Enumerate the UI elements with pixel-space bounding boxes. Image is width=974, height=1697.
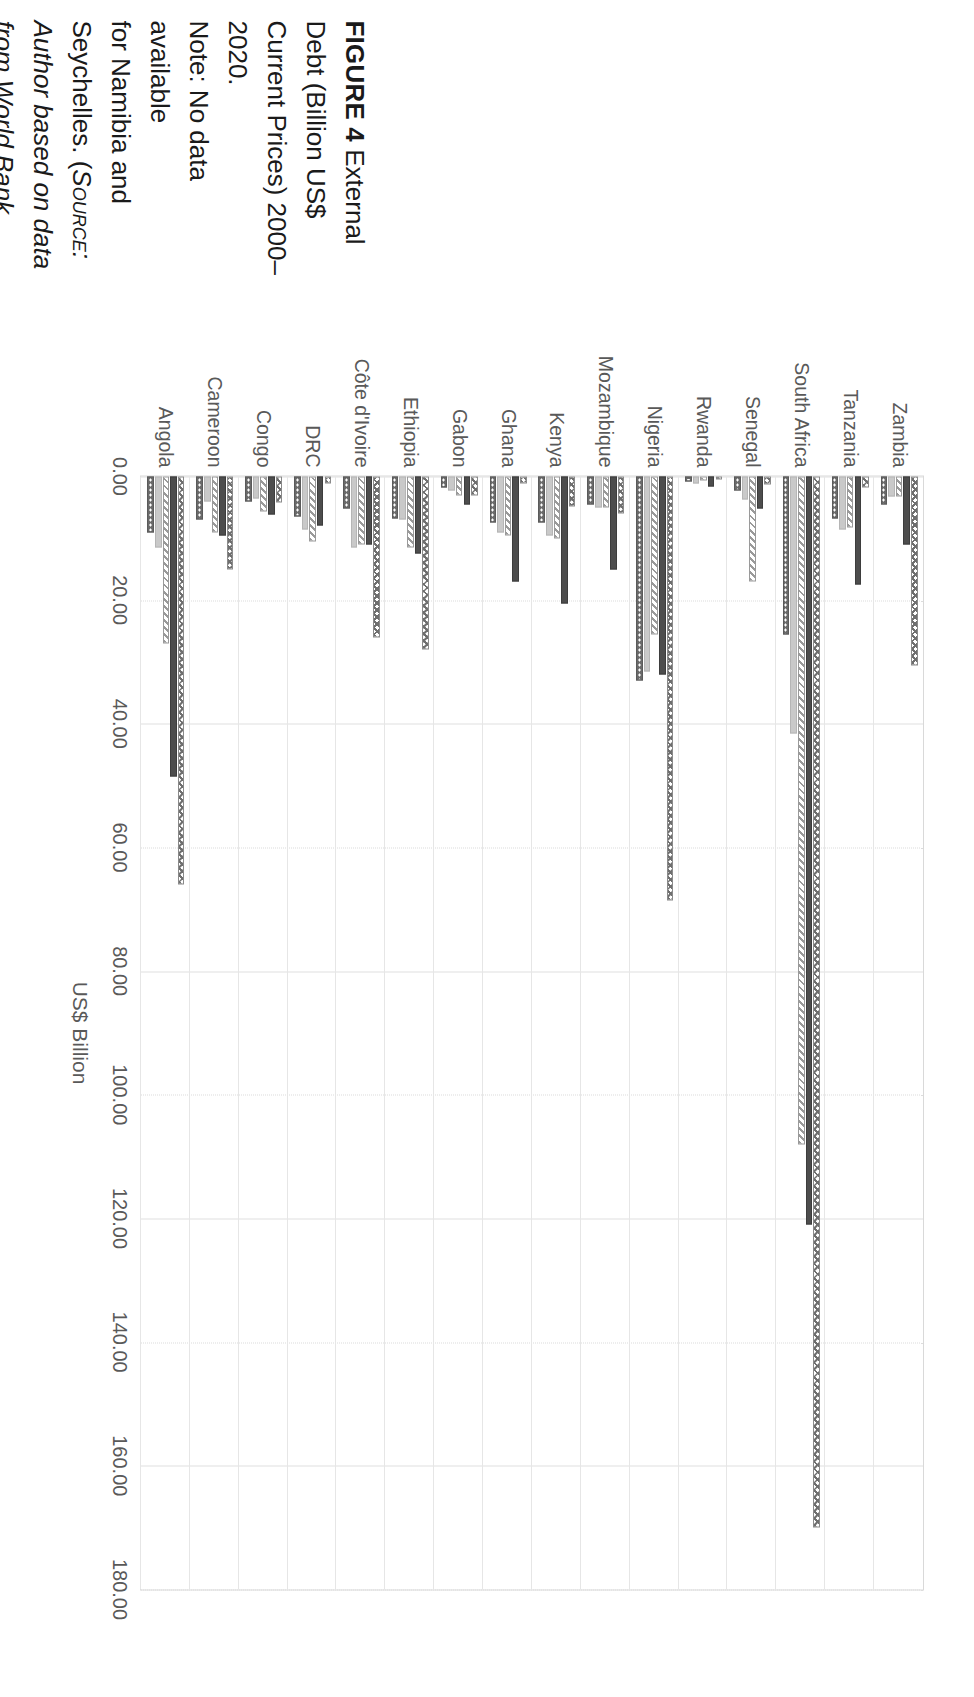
bar (268, 476, 275, 514)
category-label: Congo (252, 410, 275, 467)
category-label: Mozambique (594, 355, 617, 467)
bar (847, 476, 854, 527)
x-tick-label: 0.00 (108, 457, 131, 496)
category-separator (287, 476, 288, 1589)
category-label: Ethiopia (399, 397, 422, 467)
caption-text: from World Bank (0, 20, 19, 214)
category-separator (824, 476, 825, 1589)
bar (407, 476, 414, 547)
bar (155, 476, 162, 547)
bar (716, 476, 723, 479)
caption-line: Seychelles. (Source: (62, 20, 101, 282)
plot-area: 0.0020.0040.0060.0080.00100.00120.00140.… (140, 475, 924, 1590)
bar (569, 476, 576, 506)
figure-page: FIGURE 4 ExternalDebt (Billion US$Curren… (0, 0, 974, 1697)
bar (219, 476, 226, 535)
category-separator (140, 476, 141, 1589)
category-label: Kenya (545, 412, 568, 467)
x-tick-label: 100.00 (108, 1064, 131, 1125)
bar (644, 476, 651, 671)
bar (651, 476, 658, 634)
bar (742, 476, 749, 499)
bar (561, 476, 568, 603)
x-tick-label: 20.00 (108, 575, 131, 625)
category-separator (238, 476, 239, 1589)
caption-line: Note: No data available (140, 20, 218, 282)
category-label: Zambia (888, 402, 911, 467)
category-separator (580, 476, 581, 1589)
bar (212, 476, 219, 532)
bar (888, 476, 895, 496)
bar (343, 476, 350, 508)
bar (422, 476, 429, 649)
caption-line: from World Bank (0, 20, 23, 282)
bar (448, 476, 455, 490)
bar (245, 476, 252, 501)
bar (881, 476, 888, 504)
bar (464, 476, 471, 504)
bar (163, 476, 170, 643)
bar (813, 476, 820, 1527)
bar (667, 476, 674, 900)
bar (309, 476, 316, 541)
caption-text: Seychelles. ( (67, 20, 97, 169)
bar (587, 476, 594, 504)
bar (700, 476, 707, 480)
category-separator (384, 476, 385, 1589)
bar (351, 476, 358, 547)
source-word: Source: (67, 169, 97, 259)
bar (832, 476, 839, 518)
caption-text: Debt (Billion US$ (301, 20, 331, 218)
bar (538, 476, 545, 522)
rotated-page-wrapper: FIGURE 4 ExternalDebt (Billion US$Curren… (0, 0, 974, 1697)
category-label: Gabon (448, 408, 471, 467)
bar (325, 476, 332, 483)
bar (227, 476, 234, 569)
category-label: Nigeria (643, 405, 666, 467)
x-tick-label: 40.00 (108, 698, 131, 748)
caption-line: for Namibia and (101, 20, 140, 282)
bar (554, 476, 561, 538)
bar (415, 476, 422, 553)
bar (178, 476, 185, 884)
category-separator (433, 476, 434, 1589)
bar (798, 476, 805, 1144)
bar (456, 476, 463, 495)
bar (610, 476, 617, 569)
caption-text: for Namibia and (106, 20, 136, 204)
bar (399, 476, 406, 519)
bar (253, 476, 260, 498)
bar (839, 476, 846, 529)
bar (862, 476, 869, 487)
bar (358, 476, 365, 544)
bar (520, 476, 527, 483)
bar (260, 476, 267, 511)
bar (790, 476, 797, 733)
category-label: Angola (154, 406, 177, 467)
bar (806, 476, 813, 1224)
bar (659, 476, 666, 674)
caption-line: FIGURE 4 External (335, 20, 374, 282)
bar (317, 476, 324, 525)
bar (392, 476, 399, 518)
x-gridline (141, 1342, 923, 1344)
bar (783, 476, 790, 634)
bar (595, 476, 602, 507)
bar (734, 476, 741, 490)
bar (497, 476, 504, 532)
category-label: Senegal (741, 395, 764, 467)
bar (373, 476, 380, 637)
x-tick-label: 120.00 (108, 1187, 131, 1248)
x-gridline (141, 1465, 923, 1466)
bar (896, 476, 903, 496)
caption-line: Author based on data (23, 20, 62, 282)
bar (441, 476, 448, 487)
category-separator (775, 476, 776, 1589)
bar (903, 476, 910, 544)
category-separator (531, 476, 532, 1589)
bar (294, 476, 301, 516)
caption-text: 2020. (223, 20, 253, 85)
bar (757, 476, 764, 508)
caption-line: Debt (Billion US$ (296, 20, 335, 282)
x-gridline (141, 1589, 923, 1591)
